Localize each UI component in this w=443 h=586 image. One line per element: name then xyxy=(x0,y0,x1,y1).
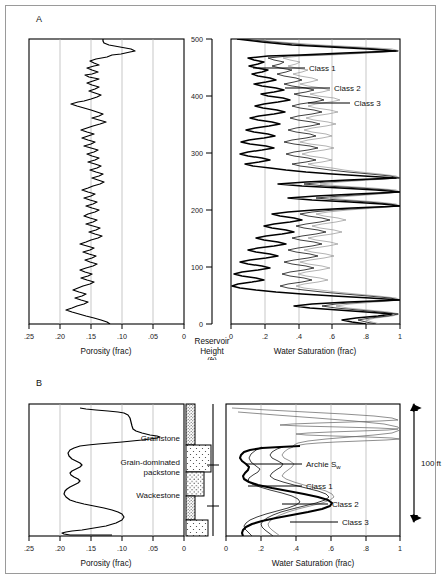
class3-saturation-curve-2 xyxy=(238,412,400,447)
class1-saturation-curve xyxy=(232,39,400,324)
depth-tick-label: 300 xyxy=(191,149,203,158)
saturation-axis-title: Water Saturation (frac) xyxy=(274,347,357,356)
panel-a-saturation-plot: Class 1 Class 2 Class 3 0 .2 .4 .6 .8 1 … xyxy=(229,39,402,356)
porosity-tick-label: .20 xyxy=(55,544,65,553)
lithology-unit-gd-packstone xyxy=(186,472,204,496)
saturation-tick-label: .6 xyxy=(328,544,334,553)
class2-label: Class 2 xyxy=(332,500,359,509)
porosity-tick-label: .25 xyxy=(24,332,34,341)
lithology-label-gd-packstone-line2: packstone xyxy=(144,468,181,477)
scale-bar-label: 100 ft xyxy=(421,459,442,468)
class3-label: Class 3 xyxy=(354,99,381,108)
porosity-tick-label: .10 xyxy=(117,332,127,341)
class2-label: Class 2 xyxy=(334,84,361,93)
porosity-curve xyxy=(66,39,135,324)
saturation-tick-label: 1 xyxy=(398,332,402,341)
porosity-curve-group xyxy=(66,39,135,324)
lithology-labels: Grainstone Grain-dominated packstone Wac… xyxy=(120,434,180,500)
saturation-tick-label: .2 xyxy=(262,332,268,341)
panel-b-porosity-plot: .25 .20 .15 .10 .05 0 Porosity (frac) xyxy=(24,404,186,568)
depth-tick-label: 400 xyxy=(191,92,203,101)
porosity-x-ticks-b xyxy=(29,536,184,541)
class3-label: Class 3 xyxy=(342,518,369,527)
depth-axis-title-line3: (ft) xyxy=(207,357,217,360)
panel-a-svg: .25 .20 .15 .10 .05 0 Porosity (frac) 50… xyxy=(0,0,443,360)
panel-b-annotations: Archie Sw Class 1 Class 2 Class 3 xyxy=(246,460,369,527)
saturation-tick-label: .8 xyxy=(363,544,369,553)
saturation-tick-label: 1 xyxy=(398,544,402,553)
saturation-tick-label: .2 xyxy=(258,544,264,553)
lithology-column xyxy=(186,404,211,536)
porosity-tick-label: .15 xyxy=(86,332,96,341)
porosity-tick-label: .10 xyxy=(117,544,127,553)
panel-b-svg: .25 .20 .15 .10 .05 0 Porosity (frac) Gr… xyxy=(0,390,443,586)
lithology-label-gd-packstone-line1: Grain-dominated xyxy=(120,458,180,467)
plot-frame xyxy=(226,404,400,536)
saturation-tick-label: .6 xyxy=(329,332,335,341)
porosity-tick-label: .25 xyxy=(24,544,34,553)
lithology-unit-grainstone xyxy=(186,445,211,472)
porosity-tick-label: .05 xyxy=(148,544,158,553)
panel-b-saturation-plot: Archie Sw Class 1 Class 2 Class 3 0 .2 .… xyxy=(224,404,402,568)
saturation-x-ticks-b xyxy=(226,536,400,541)
depth-tick-label: 100 xyxy=(191,263,203,272)
porosity-tick-label: 0 xyxy=(182,544,186,553)
panel-a-depth-axis: 500 400 300 200 100 0 Reservoir Height (… xyxy=(191,35,230,360)
panel-a-porosity-plot: .25 .20 .15 .10 .05 0 Porosity (frac) xyxy=(24,39,186,356)
lithology-label-wackestone: Wackestone xyxy=(136,491,180,500)
depth-axis-title-line1: Reservoir xyxy=(194,337,229,346)
scale-bar-arrowhead-bottom xyxy=(410,515,418,523)
porosity-tick-label: 0 xyxy=(182,332,186,341)
saturation-x-ticks xyxy=(231,324,400,329)
figure-root: A .25 . xyxy=(0,0,443,586)
lithology-unit-grainstone-2 xyxy=(186,520,208,536)
saturation-tick-label: 0 xyxy=(229,332,233,341)
saturation-tick-label: .4 xyxy=(293,544,299,553)
lithology-unit-wackestone xyxy=(186,404,195,445)
class1-label: Class 1 xyxy=(306,482,333,491)
porosity-axis-title: Porosity (frac) xyxy=(81,559,132,568)
porosity-x-ticks xyxy=(29,324,184,329)
saturation-tick-label: .8 xyxy=(363,332,369,341)
porosity-tick-label: .20 xyxy=(55,332,65,341)
depth-axis-title-line2: Height xyxy=(200,347,224,356)
porosity-tick-label: .15 xyxy=(86,544,96,553)
plot-frame xyxy=(29,39,184,324)
porosity-tick-label: .05 xyxy=(148,332,158,341)
depth-tick-label: 0 xyxy=(199,320,203,329)
lithology-label-grainstone: Grainstone xyxy=(141,434,181,443)
saturation-tick-label: .4 xyxy=(296,332,302,341)
saturation-tick-label: 0 xyxy=(224,544,228,553)
depth-tick-label: 500 xyxy=(191,35,203,44)
scale-bar: 100 ft xyxy=(410,403,442,523)
class1-label: Class 1 xyxy=(309,64,336,73)
archie-sw-label: Archie Sw xyxy=(306,460,341,470)
panel-b-letter: B xyxy=(36,378,42,388)
lithology-unit-wackestone-2 xyxy=(186,496,195,520)
saturation-axis-title: Water Saturation (frac) xyxy=(272,559,355,568)
scale-bar-arrowhead-top xyxy=(410,403,418,411)
depth-tick-label: 200 xyxy=(191,206,203,215)
porosity-axis-title: Porosity (frac) xyxy=(81,347,132,356)
